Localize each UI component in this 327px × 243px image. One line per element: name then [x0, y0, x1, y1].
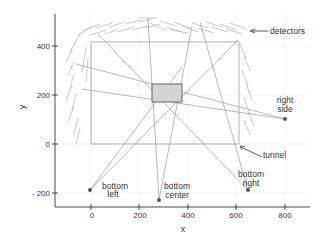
tunnel-annotation: tunnel — [240, 146, 286, 160]
grid — [55, 14, 310, 207]
x-tick-200: 200 — [133, 211, 147, 220]
x-tick-800: 800 — [278, 211, 292, 220]
source-bottom-left — [88, 188, 92, 192]
x-tick-600: 600 — [229, 211, 243, 220]
label-bottom-right-2: right — [243, 178, 260, 188]
detectors-annotation: detectors — [250, 26, 305, 36]
tunnel-label: tunnel — [263, 150, 286, 160]
source-bottom-right — [246, 188, 250, 192]
x-tick-400: 400 — [181, 211, 195, 220]
detectors-label: detectors — [270, 26, 305, 36]
source-bottom-center — [157, 198, 161, 202]
label-right-side-2: side — [277, 104, 293, 114]
y-tick-neg200: - 200 — [32, 189, 51, 198]
source-right-side — [283, 117, 287, 121]
y-tick-0: 0 — [46, 140, 51, 149]
detector-array — [66, 18, 254, 144]
x-axis-label: x — [181, 224, 186, 234]
target-region — [152, 84, 182, 102]
label-bottom-left-2: left — [107, 189, 119, 199]
y-tick-400: 400 — [37, 42, 51, 51]
label-bottom-center-2: center — [165, 190, 189, 200]
y-axis-label: y — [17, 104, 27, 109]
x-tick-0: 0 — [90, 211, 95, 220]
diagram-canvas: bottom left bottom center bottom right r… — [0, 0, 327, 243]
y-tick-200: 200 — [37, 91, 51, 100]
